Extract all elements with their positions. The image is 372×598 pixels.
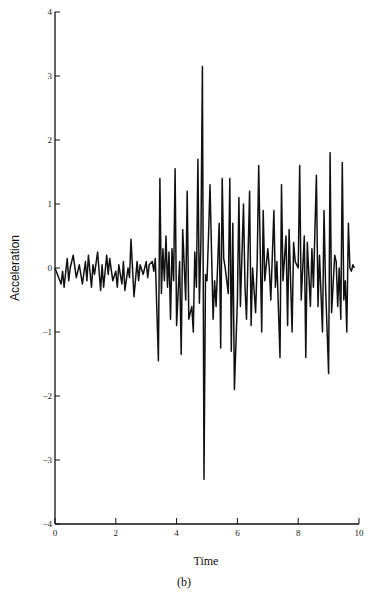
x-tick-label: 4 (174, 528, 179, 538)
y-tick-label: −4 (42, 519, 52, 529)
acceleration-series-line (55, 66, 354, 479)
y-tick-label: 2 (48, 135, 53, 145)
y-tick-label: 3 (48, 71, 53, 81)
y-tick-label: 1 (48, 199, 53, 209)
y-ticks: −4−3−2−101234 (42, 7, 60, 529)
x-tick-label: 8 (296, 528, 301, 538)
x-tick-label: 0 (53, 528, 58, 538)
x-axis-title: Time (194, 554, 219, 568)
y-tick-label: −2 (42, 391, 52, 401)
y-tick-label: −1 (42, 327, 52, 337)
x-tick-label: 2 (114, 528, 119, 538)
y-axis-title: Acceleration (8, 235, 22, 301)
y-tick-label: −3 (42, 455, 52, 465)
figure-caption: (b) (177, 575, 191, 589)
x-ticks: 0246810 (53, 518, 364, 538)
acceleration-chart: −4−3−2−101234 0246810 Acceleration Time … (0, 0, 372, 598)
x-tick-label: 6 (235, 528, 240, 538)
y-tick-label: 4 (48, 7, 53, 17)
y-tick-label: 0 (48, 263, 53, 273)
x-tick-label: 10 (355, 528, 365, 538)
